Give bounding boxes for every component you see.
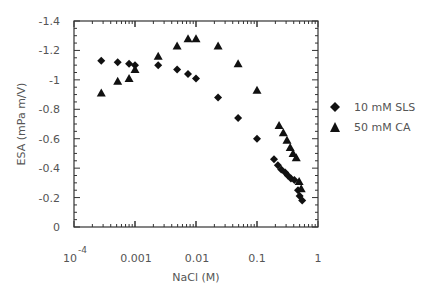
triangle-data-point	[253, 86, 262, 94]
y-tick-label: -1.2	[39, 44, 60, 57]
axis-ticks	[74, 21, 318, 227]
triangle-data-point	[131, 65, 140, 73]
triangle-data-point	[279, 128, 288, 136]
y-tick-label: 0	[53, 221, 60, 234]
y-axis-label: ESA (mPa m/V)	[15, 83, 28, 166]
x-tick-label-exp: -4	[78, 245, 87, 255]
diamond-data-point	[192, 74, 200, 82]
triangle-data-point	[282, 136, 291, 144]
y-axis-tick-labels: -1.4-1.2-1-0.8-0.6-0.4-0.20	[39, 15, 60, 234]
diamond-data-point	[114, 58, 122, 66]
diamond-data-point	[184, 70, 192, 78]
diamond-data-point	[97, 57, 105, 65]
triangle-data-point	[113, 77, 122, 85]
legend: 10 mM SLS 50 mM CA	[328, 97, 415, 137]
diamond-data-point	[125, 60, 133, 68]
triangle-marker-icon	[328, 122, 342, 132]
y-tick-label: -0.8	[39, 103, 60, 116]
x-tick-label: 0.01	[185, 252, 210, 265]
triangle-data-point	[234, 59, 243, 67]
diamond-data-point	[234, 114, 242, 122]
triangle-data-point	[192, 34, 201, 42]
x-axis-label: NaCl (M)	[172, 271, 219, 284]
diamond-data-point	[173, 66, 181, 74]
diamond-data-point	[253, 135, 261, 143]
x-tick-label-base: 10	[63, 252, 77, 265]
x-axis-tick-labels: 10 -4 0.001 0.01 0.1 1	[63, 245, 322, 265]
data-points	[97, 34, 306, 204]
triangle-data-point	[173, 42, 182, 50]
triangle-data-point	[125, 74, 134, 82]
legend-item-ca: 50 mM CA	[328, 117, 415, 137]
legend-item-sls: 10 mM SLS	[328, 97, 415, 117]
chart: -1.4-1.2-1-0.8-0.6-0.4-0.20 10 -4 0.001 …	[0, 0, 432, 288]
triangle-data-point	[184, 34, 193, 42]
diamond-data-point	[270, 155, 278, 163]
triangle-data-point	[97, 89, 106, 97]
y-tick-label: -1	[49, 74, 60, 87]
x-tick-label: 1	[315, 252, 322, 265]
diamond-marker-icon	[328, 102, 342, 112]
y-tick-label: -1.4	[39, 15, 60, 28]
diamond-data-point	[214, 94, 222, 102]
triangle-data-point	[275, 121, 284, 129]
triangle-data-point	[154, 52, 163, 60]
x-tick-label: 0.1	[248, 252, 266, 265]
plot-frame	[74, 21, 318, 227]
plot-area	[74, 21, 318, 227]
y-tick-label: -0.2	[39, 192, 60, 205]
x-tick-label: 0.001	[120, 252, 152, 265]
y-tick-label: -0.4	[39, 162, 60, 175]
y-tick-label: -0.6	[39, 133, 60, 146]
triangle-data-point	[214, 42, 223, 50]
legend-label: 10 mM SLS	[354, 101, 415, 114]
legend-label: 50 mM CA	[354, 121, 410, 134]
diamond-data-point	[154, 61, 162, 69]
